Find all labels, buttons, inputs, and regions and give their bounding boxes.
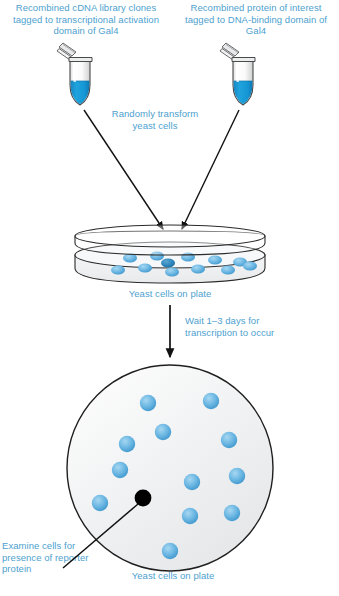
diagram-graphics (0, 0, 339, 596)
left-tube (57, 43, 92, 105)
left-tube-liquid (71, 81, 90, 104)
diagram-canvas: Recombined cDNA library clones tagged to… (0, 0, 339, 596)
side-plate-dark-cell (161, 258, 175, 267)
right-tube-liquid (234, 81, 253, 104)
petri-dish-side-view (75, 225, 265, 283)
arrow-left-tube-to-plate (84, 110, 163, 229)
right-tube (220, 43, 255, 105)
petri-dish-top-view (67, 365, 273, 571)
arrow-right-tube-to-plate (182, 110, 239, 229)
